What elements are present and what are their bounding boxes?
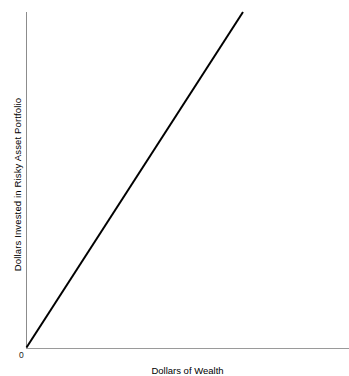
x-axis-label: Dollars of Wealth	[26, 365, 349, 376]
risky-asset-line	[27, 12, 244, 348]
origin-tick-label: 0	[19, 350, 24, 361]
